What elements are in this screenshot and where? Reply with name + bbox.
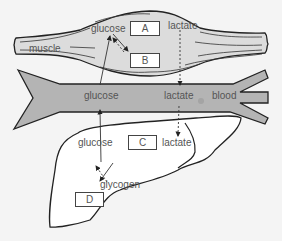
cori-cycle-diagram: glucose lactate muscle A B glucose lacta… <box>0 0 282 241</box>
liver-shape <box>49 116 241 227</box>
liver-lactate-label: lactate <box>162 138 191 148</box>
liver-glucose-label: glucose <box>78 138 112 148</box>
blood-lactate-label: lactate <box>164 91 193 101</box>
diagram-shapes <box>0 0 282 241</box>
blood-label: blood <box>212 91 236 101</box>
box-D: D <box>75 192 104 207</box>
blood-glucose-label: glucose <box>84 91 118 101</box>
box-A: A <box>130 21 160 36</box>
muscle-lactate-label: lactate <box>168 21 197 31</box>
muscle-label: muscle <box>29 44 61 54</box>
liver-glycogen-label: glycogen <box>100 180 140 190</box>
box-C: C <box>128 135 157 150</box>
box-B: B <box>130 53 160 68</box>
muscle-glucose-label: glucose <box>91 24 125 34</box>
